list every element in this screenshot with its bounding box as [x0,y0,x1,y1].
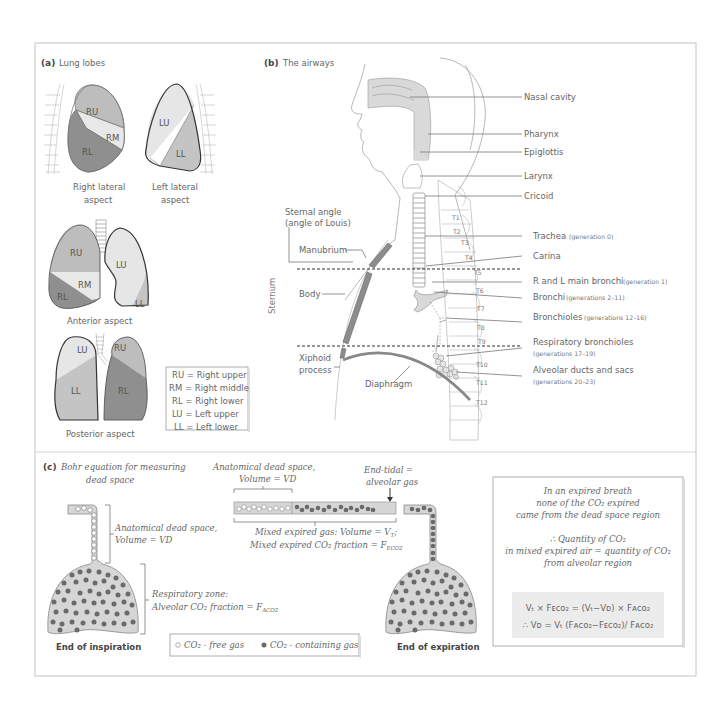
vertebra-t1: T1 [451,214,460,221]
mixed-gas-text-1: Mixed expired gas: Volume = V [254,527,391,537]
expired-gas-tube [234,502,396,514]
mixed-gas-label-1: Mixed expired gas: Volume = VT; [254,527,397,538]
left-lateral-caption-1: Left lateral [152,182,198,192]
label-xiphoid-2: process [299,365,332,375]
panel-a-letter: (a) [41,58,55,68]
legend-ru: RU = Right upper [172,370,247,380]
panel-a-title: Lung lobes [59,58,106,68]
panel-b-letter: (b) [264,58,279,68]
panel-c-title-1: Bohr equation for measuring [60,462,186,472]
left-lateral-caption-2: aspect [161,195,190,205]
label-bronchioles: Bronchioles [533,312,583,322]
label-sternum: Sternum [267,278,277,314]
explanation-line-1: In an expired breath [543,486,633,496]
right-lateral-caption-1: Right lateral [73,182,125,192]
lobe-legend: RU = Right upper RM = Right middle RL = … [166,367,250,432]
legend-ll: LL = Left lower [174,422,238,432]
vertebra-t2: T2 [452,228,461,235]
vertebra-t11: T11 [475,379,488,386]
vertebra-t4: T4 [464,254,473,261]
co2-containing-icon [262,643,267,648]
dead-space-label-1: Anatomical dead space, [114,523,218,533]
respiratory-figure: (a) Lung lobes RU RM RL Right lateral as… [0,0,706,709]
legend-lu: LU = Left upper [172,409,239,419]
panel-c-letter: (c) [43,462,57,472]
label-main-bronchi: R and L main bronchi [533,276,623,286]
equation-panel [512,592,664,638]
equation-1: Vₜ × Fᴇᴄᴏ₂ = (Vₜ−Vᴅ) × Fᴀᴄᴏ₂ [526,603,650,613]
legend-co2-free: CO₂ - free gas [184,640,245,650]
label-manubrium: Manubrium [299,245,347,255]
equation-2: ∴ Vᴅ = Vₜ (Fᴀᴄᴏ₂−Fᴇᴄᴏ₂)/ Fᴀᴄᴏ₂ [523,620,654,630]
label-resp-bronchioles-gen: (generations 17–19) [533,350,596,358]
vertebra-t7: T7 [476,305,485,312]
legend-rl: RL = Right lower [172,396,244,406]
posterior-caption: Posterior aspect [66,429,135,439]
co2-free-icon [176,643,181,648]
explanation-line-7: from alveolar region [543,558,632,568]
mixed-gas-end-1: ; [393,527,397,537]
legend-co2-containing: CO₂ - containing gas [270,640,359,650]
end-tidal-label-2: alveolar gas [366,477,419,487]
panel-b-title: The airways [282,58,335,68]
gas-legend: CO₂ - free gas CO₂ - containing gas [170,634,361,658]
label-pharynx: Pharynx [524,129,559,139]
label-sternal-angle-1: Sternal angle [285,207,342,217]
lobe-label-ru: RU [86,107,98,117]
label-carina: Carina [533,251,561,261]
ant-lobe-rl: RL [57,292,68,302]
vertebra-t10: T10 [475,361,488,368]
label-alveolar: Alveolar ducts and sacs [533,365,634,375]
explanation-line-2: none of the CO₂ expired [536,498,640,508]
label-larynx: Larynx [524,171,553,181]
panel-c-title-2: dead space [86,475,134,485]
post-lobe-lu: LU [77,345,88,355]
label-bronchi-gen: (generations 2–11) [566,294,625,302]
vertebra-t3: T3 [460,239,469,246]
post-lobe-ll: LL [71,386,81,396]
label-trachea-gen: (generation 0) [569,233,613,241]
vertebra-t8: T8 [476,324,485,331]
tube-dead-label-2: Volume = VD [239,474,296,484]
caption-end-inspiration: End of inspiration [56,642,141,652]
explanation-box: In an expired breath none of the CO₂ exp… [493,477,685,648]
label-nasal-cavity: Nasal cavity [524,92,576,102]
label-trachea-name: Trachea [532,231,566,241]
label-alveolar-gen: (generations 20–23) [533,378,596,386]
dead-space-label-2: Volume = VD [115,535,172,545]
explanation-line-3: came from the dead space region [516,510,660,520]
lobe-label-lu: LU [159,118,170,128]
lobe-label-rm: RM [106,133,119,143]
label-cricoid: Cricoid [524,191,553,201]
ant-lobe-lu: LU [116,260,127,270]
right-lateral-caption-2: aspect [84,195,113,205]
mixed-gas-label-2: Mixed expired CO₂ fraction = FECO2 [249,540,403,551]
label-bronchioles-gen: (generations 12–16) [584,314,647,322]
anterior-caption: Anterior aspect [67,316,133,326]
label-diaphragm: Diaphragm [365,379,412,389]
end-tidal-label-1: End-tidal = [363,465,413,475]
vertebra-t5: T5 [473,269,482,276]
lobe-label-ll: LL [176,149,186,159]
label-sternal-angle-2: (angle of Louis) [285,218,351,228]
label-body: Body [299,289,320,299]
explanation-line-5: ∴ Quantity of CO₂ [550,534,626,544]
mixed-gas-text-2: Mixed expired CO₂ fraction = F [249,540,387,550]
resp-zone-label-1: Respiratory zone: [151,589,228,599]
ant-lobe-ru: RU [70,248,82,258]
caption-end-expiration: End of expiration [397,642,479,652]
ant-lobe-rm: RM [78,280,91,290]
resp-zone-text: Alveolar CO₂ fraction = F [151,602,263,612]
post-lobe-ru: RU [114,343,126,353]
vertebra-t6: T6 [475,287,484,294]
resp-zone-subscript: ACO2 [261,607,279,613]
trachea [413,193,425,287]
explanation-line-6: in mixed expired air = quantity of CO₂ [505,546,671,556]
label-bronchi: Bronchi [533,292,565,302]
post-lobe-rl: RL [118,386,129,396]
lobe-label-rl: RL [82,147,93,157]
vertebra-t9: T9 [477,338,486,345]
legend-rm: RM = Right middle [169,383,249,393]
ant-lobe-ll: LL [135,299,145,309]
vertebra-t12: T12 [475,399,488,406]
